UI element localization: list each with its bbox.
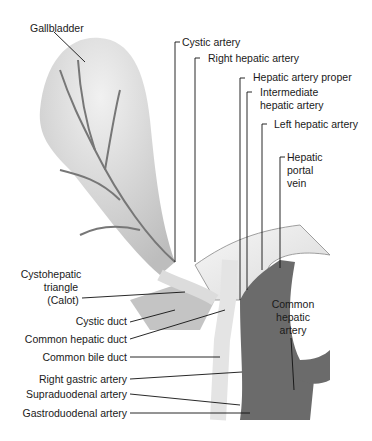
label-right-hepatic-artery: Right hepatic artery [208,52,299,65]
label-line: Common [268,298,318,311]
label-line: portal [287,164,323,177]
label-hepatic-artery-proper: Hepatic artery proper [253,71,352,84]
common-hepatic-artery-shape [300,350,330,384]
label-line: artery [268,324,318,337]
label-cystic-artery: Cystic artery [182,36,240,49]
label-line: triangle [18,281,84,294]
label-gallbladder: Gallbladder [30,22,84,35]
label-cystohepatic-triangle: Cystohepatic triangle (Calot) [18,268,84,307]
portal-vein-shape [240,260,315,420]
label-gastroduodenal-artery: Gastroduodenal artery [0,407,127,420]
label-hepatic-portal-vein: Hepatic portal vein [287,151,323,190]
label-line: (Calot) [18,294,84,307]
label-supraduodenal-artery: Supraduodenal artery [0,388,127,401]
label-line: vein [287,177,323,190]
label-line: Cystohepatic [18,268,84,281]
label-cystic-duct: Cystic duct [0,315,127,328]
label-common-bile-duct: Common bile duct [0,351,127,364]
label-common-hepatic-duct: Common hepatic duct [0,333,127,346]
label-line: Intermediate [260,86,324,99]
label-line: Hepatic [287,151,323,164]
label-line: hepatic [268,311,318,324]
label-line: hepatic artery [260,99,324,112]
label-left-hepatic-artery: Left hepatic artery [274,118,358,131]
label-common-hepatic-artery: Common hepatic artery [268,298,318,337]
label-right-gastric-artery: Right gastric artery [0,373,127,386]
anatomy-diagram: Gallbladder Cystic artery Right hepatic … [0,0,372,441]
label-intermediate-hepatic-artery: Intermediate hepatic artery [260,86,324,112]
